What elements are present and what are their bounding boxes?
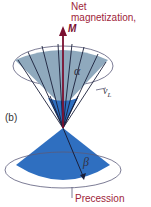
alpha-label: α [74, 64, 80, 79]
net-line1: Net [71, 1, 136, 12]
nu-subscript: L [107, 91, 111, 99]
precession-label: Precession [75, 193, 124, 204]
beta-label: β [83, 155, 89, 170]
m-symbol: M [68, 23, 76, 34]
net-line2: magnetization, [71, 12, 136, 23]
lower-cone [5, 128, 121, 198]
panel-label: (b) [5, 112, 17, 123]
nu-label: νL [103, 85, 111, 99]
net-magnetization-label: Net magnetization, [71, 1, 136, 23]
